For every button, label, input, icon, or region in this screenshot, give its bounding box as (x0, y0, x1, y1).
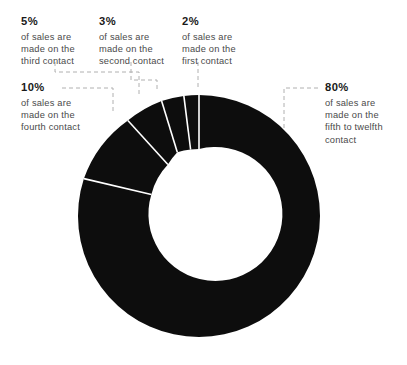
callout-fifth-to-twelfth-contact: 80% of sales are made on the fifth to tw… (325, 80, 407, 146)
donut-chart-figure: 5% of sales are made on the third contac… (0, 0, 407, 365)
callout-third-contact: 5% of sales are made on the third contac… (21, 14, 105, 68)
callout-fifth-to-twelfth-contact-value: 80% (325, 80, 407, 94)
callout-third-contact-text: of sales are made on the third contact (21, 31, 105, 68)
callout-second-contact: 3% of sales are made on the second conta… (99, 14, 187, 68)
callout-third-contact-value: 5% (21, 14, 105, 28)
callout-second-contact-text: of sales are made on the second contact (99, 31, 187, 68)
callout-first-contact: 2% of sales are made on the first contac… (182, 14, 268, 68)
callout-first-contact-value: 2% (182, 14, 268, 28)
callout-first-contact-text: of sales are made on the first contact (182, 31, 268, 68)
callout-fourth-contact: 10% of sales are made on the fourth cont… (21, 80, 113, 134)
callout-fifth-to-twelfth-contact-text: of sales are made on the fifth to twelft… (325, 97, 407, 147)
callout-fourth-contact-text: of sales are made on the fourth contact (21, 97, 113, 134)
callout-fourth-contact-value: 10% (21, 80, 113, 94)
callout-second-contact-value: 3% (99, 14, 187, 28)
